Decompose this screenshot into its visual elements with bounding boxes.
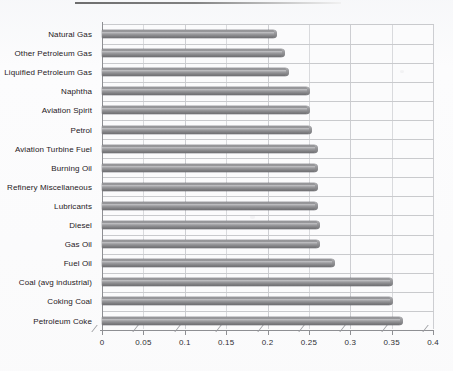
x-tick-0.05 [143,330,144,335]
bar [102,164,317,172]
bar [102,106,309,114]
bar [102,30,276,38]
bar [102,297,392,305]
bar [102,259,334,267]
row-separator [103,292,434,293]
row-separator [103,24,434,25]
x-tick-0.4 [433,330,434,335]
category-label: Diesel [69,221,92,230]
bar-chart: 00.050.10.150.20.250.30.350.4 Natural Ga… [0,0,453,371]
category-label: Coal (avg industrial) [19,278,92,287]
category-label: Gas Oil [65,240,92,249]
x-tick-0.15 [226,330,227,335]
bar [102,278,392,286]
category-label: Petroleum Coke [33,316,92,325]
x-tick-label: 0.05 [135,338,151,347]
x-tick-label: 0.1 [179,338,191,347]
x-tick-0.25 [309,330,310,335]
bar [102,49,284,57]
bar [102,183,317,191]
x-tick-0.2 [268,330,269,335]
bar [102,317,402,325]
bar [102,126,311,134]
category-label: Liquified Petroleum Gas [4,68,92,77]
row-separator [103,101,434,102]
category-label: Fuel Oil [64,259,92,268]
row-separator [103,311,434,312]
category-label: Natural Gas [48,30,92,39]
row-separator [103,44,434,45]
x-tick-0.35 [392,330,393,335]
category-label: Other Petroleum Gas [15,49,93,58]
x-tick-label: 0.3 [344,338,356,347]
x-tick-label: 0 [100,338,105,347]
bar [102,87,309,95]
row-separator [103,254,434,255]
row-separator [103,177,434,178]
row-separator [103,215,434,216]
row-separator [103,82,434,83]
x-tick-label: 0.2 [262,338,274,347]
bar [102,68,288,76]
x-tick-0.3 [350,330,351,335]
bar [102,202,317,210]
category-label: Coking Coal [47,297,92,306]
x-tick-0.1 [185,330,186,335]
category-label: Burning Oil [51,163,92,172]
category-label: Aviation Spirit [42,106,92,115]
x-tick-label: 0.25 [301,338,317,347]
category-label: Aviation Turbine Fuel [15,144,92,153]
row-separator [103,196,434,197]
bar [102,240,319,248]
bar [102,221,319,229]
row-separator [103,273,434,274]
row-separator [103,139,434,140]
category-label: Petrol [71,125,93,134]
row-separator [103,158,434,159]
bar [102,145,317,153]
category-label: Refinery Miscellaneous [7,182,92,191]
row-separator [103,63,434,64]
row-separator [103,120,434,121]
row-separator [103,235,434,236]
x-tick-label: 0.15 [218,338,234,347]
category-label: Naphtha [61,87,92,96]
category-label: Lubricants [54,201,92,210]
x-tick-label: 0.35 [383,338,399,347]
x-tick-0 [102,330,103,335]
x-tick-label: 0.4 [427,338,439,347]
scan-artifact [400,70,404,73]
